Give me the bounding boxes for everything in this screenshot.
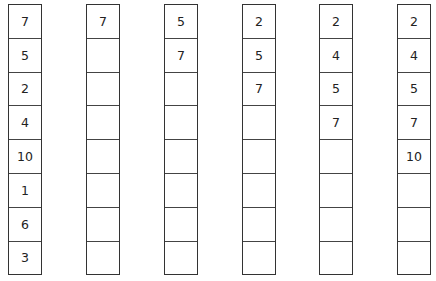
array-cell: 1 — [9, 174, 41, 208]
array-cell — [87, 39, 119, 73]
array-column-2: 7 — [86, 4, 120, 275]
array-cell: 4 — [398, 39, 430, 73]
array-cell — [165, 242, 197, 275]
array-cell: 3 — [9, 242, 41, 275]
array-cell — [243, 174, 275, 208]
array-cell: 10 — [9, 140, 41, 174]
array-cell: 6 — [9, 208, 41, 242]
array-cell: 5 — [243, 39, 275, 73]
array-cell — [398, 208, 430, 242]
array-cell: 5 — [9, 39, 41, 73]
array-cell — [165, 73, 197, 107]
array-cell: 7 — [398, 106, 430, 140]
array-cell: 7 — [9, 5, 41, 39]
array-cell: 2 — [9, 73, 41, 107]
array-cell: 4 — [9, 106, 41, 140]
array-cell — [320, 140, 352, 174]
array-cell: 10 — [398, 140, 430, 174]
array-cell: 2 — [243, 5, 275, 39]
array-cell — [398, 242, 430, 275]
array-column-1: 752410163 — [8, 4, 42, 275]
array-cell — [165, 140, 197, 174]
array-cell — [320, 208, 352, 242]
array-cell: 7 — [87, 5, 119, 39]
array-cell — [243, 140, 275, 174]
array-column-3: 57 — [164, 4, 198, 275]
array-cell: 5 — [165, 5, 197, 39]
array-column-6: 245710 — [397, 4, 431, 275]
array-cell — [87, 140, 119, 174]
array-column-5: 2457 — [319, 4, 353, 275]
array-cell — [320, 242, 352, 275]
array-cell — [87, 73, 119, 107]
array-cell — [165, 174, 197, 208]
array-cell: 5 — [320, 73, 352, 107]
array-cell — [165, 106, 197, 140]
array-cell — [87, 242, 119, 275]
array-cell — [165, 208, 197, 242]
array-cell — [320, 174, 352, 208]
array-cell — [243, 242, 275, 275]
array-column-4: 257 — [242, 4, 276, 275]
array-cell — [87, 208, 119, 242]
array-cell: 5 — [398, 73, 430, 107]
array-cell — [398, 174, 430, 208]
array-cell — [243, 208, 275, 242]
array-cell: 2 — [398, 5, 430, 39]
array-cell — [87, 174, 119, 208]
array-cell — [87, 106, 119, 140]
array-cell — [243, 106, 275, 140]
array-cell: 7 — [320, 106, 352, 140]
array-cell: 2 — [320, 5, 352, 39]
array-cell: 7 — [243, 73, 275, 107]
array-cell: 7 — [165, 39, 197, 73]
array-cell: 4 — [320, 39, 352, 73]
